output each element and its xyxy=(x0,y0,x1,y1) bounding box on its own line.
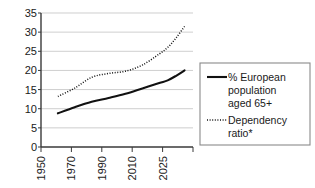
x-tick-label-1950: 1950 xyxy=(35,156,47,180)
legend-label-dependency-line1: Dependency xyxy=(228,114,288,126)
y-axis-labels: 35 30 25 20 15 10 5 0 xyxy=(25,7,37,153)
y-tick-label-10: 10 xyxy=(25,103,37,115)
x-tick-label-1990: 1990 xyxy=(96,156,108,180)
x-axis-labels: 1950 1970 1990 2010 2025 xyxy=(35,156,169,180)
legend-label-pop65-line3: aged 65+ xyxy=(228,97,272,109)
legend: % European population aged 65+ Dependenc… xyxy=(200,63,310,145)
legend-label-pop65-line2: population xyxy=(228,84,277,96)
y-tick-label-20: 20 xyxy=(25,64,37,76)
x-axis-ticks xyxy=(41,147,193,152)
y-tick-label-25: 25 xyxy=(25,45,37,57)
population-aging-line-chart: 35 30 25 20 15 10 5 0 1950 1970 1990 201… xyxy=(0,0,315,188)
y-tick-label-15: 15 xyxy=(25,84,37,96)
legend-label-pop65-line1: % European xyxy=(228,71,286,83)
y-tick-label-30: 30 xyxy=(25,26,37,38)
legend-label-dependency-line2: ratio* xyxy=(228,127,253,139)
x-tick-label-2010: 2010 xyxy=(126,156,138,180)
y-tick-label-35: 35 xyxy=(25,7,37,19)
x-tick-label-1970: 1970 xyxy=(65,156,77,180)
x-tick-label-2025: 2025 xyxy=(157,156,169,180)
y-tick-label-5: 5 xyxy=(31,122,37,134)
y-tick-label-0: 0 xyxy=(31,141,37,153)
